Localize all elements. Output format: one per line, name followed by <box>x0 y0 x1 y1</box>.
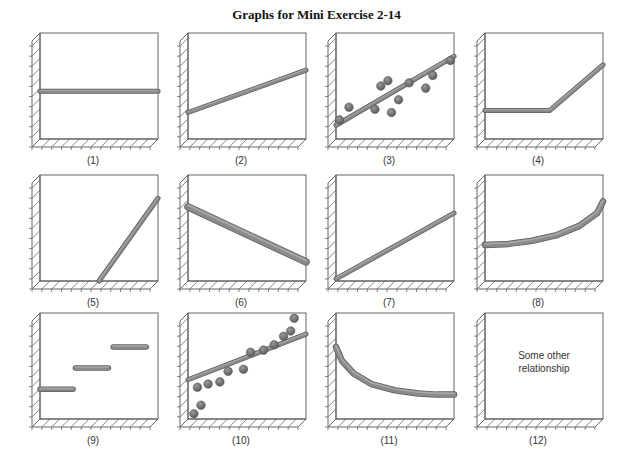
data-point <box>197 401 206 410</box>
x-tick <box>32 139 40 147</box>
x-tick <box>52 419 60 427</box>
x-tick <box>229 419 237 427</box>
x-tick <box>595 281 603 289</box>
panel-caption: (1) <box>87 155 99 166</box>
plot-wall <box>485 33 603 139</box>
y-tick <box>477 379 485 387</box>
y-tick <box>328 241 336 249</box>
y-tick <box>32 99 40 107</box>
x-tick <box>348 139 356 147</box>
graph-panel-1: (1) <box>29 33 158 166</box>
y-tick <box>32 369 40 377</box>
x-tick <box>52 281 60 289</box>
x-tick <box>239 139 247 147</box>
data-point <box>190 409 199 418</box>
graph-panel-9: (9) <box>29 313 158 446</box>
y-tick <box>477 399 485 407</box>
y-tick <box>328 220 336 228</box>
y-tick <box>477 409 485 417</box>
x-tick <box>526 419 534 427</box>
x-tick <box>387 281 395 289</box>
y-tick <box>180 399 188 407</box>
y-tick <box>328 78 336 86</box>
x-tick <box>42 139 50 147</box>
x-tick <box>507 281 515 289</box>
panel-note: relationship <box>518 363 570 374</box>
graph-panel-6: (6) <box>177 175 306 308</box>
y-tick <box>180 338 188 346</box>
x-tick <box>338 419 346 427</box>
y-tick <box>180 190 188 198</box>
x-tick <box>417 281 425 289</box>
x-tick <box>81 139 89 147</box>
x-tick <box>210 419 218 427</box>
y-tick <box>32 338 40 346</box>
y-tick <box>477 358 485 366</box>
x-tick <box>71 139 79 147</box>
x-tick <box>150 139 158 147</box>
panel-caption: (8) <box>532 297 544 308</box>
graph-panel-7: (7) <box>325 175 454 308</box>
x-tick <box>516 139 524 147</box>
x-tick <box>595 419 603 427</box>
x-tick <box>367 419 375 427</box>
x-tick <box>566 419 574 427</box>
x-tick <box>200 139 208 147</box>
x-tick <box>140 281 148 289</box>
x-tick <box>239 281 247 289</box>
x-tick <box>101 419 109 427</box>
x-tick <box>259 281 267 289</box>
x-tick <box>219 281 227 289</box>
data-point <box>270 341 279 350</box>
y-tick <box>180 99 188 107</box>
graph-panel-11: (11) <box>325 313 454 446</box>
x-tick <box>269 419 277 427</box>
panel-caption: (9) <box>87 435 99 446</box>
x-tick <box>62 139 70 147</box>
x-tick <box>546 419 554 427</box>
x-tick <box>249 139 257 147</box>
y-tick <box>477 119 485 127</box>
y-tick <box>180 271 188 279</box>
x-tick <box>585 281 593 289</box>
x-tick <box>190 419 198 427</box>
y-tick <box>180 58 188 66</box>
x-tick <box>180 281 188 289</box>
graphs-grid: (1)(2)(3)(4)(5)(6)(7)(8)(9)(10)(11)Some … <box>0 0 633 468</box>
x-tick <box>397 281 405 289</box>
x-tick <box>219 139 227 147</box>
panel-caption: (10) <box>232 435 250 446</box>
panel-caption: (3) <box>383 155 395 166</box>
x-tick <box>487 139 495 147</box>
y-tick <box>32 261 40 269</box>
y-tick <box>328 358 336 366</box>
graph-panel-2: (2) <box>177 33 306 166</box>
y-tick <box>32 129 40 137</box>
y-tick <box>477 251 485 259</box>
y-tick <box>328 58 336 66</box>
x-tick <box>91 139 99 147</box>
x-tick <box>32 281 40 289</box>
x-tick <box>358 419 366 427</box>
x-tick <box>387 139 395 147</box>
y-tick <box>32 379 40 387</box>
data-point <box>371 105 380 114</box>
x-tick <box>377 139 385 147</box>
y-tick <box>180 119 188 127</box>
y-tick <box>328 48 336 56</box>
y-tick <box>32 210 40 218</box>
x-tick <box>507 139 515 147</box>
data-point <box>216 378 225 387</box>
y-tick <box>477 129 485 137</box>
y-tick <box>328 200 336 208</box>
x-tick <box>42 281 50 289</box>
y-tick <box>477 68 485 76</box>
data-point <box>345 103 354 112</box>
x-tick <box>278 281 286 289</box>
x-tick <box>259 139 267 147</box>
x-tick <box>497 419 505 427</box>
plot-wall <box>336 33 454 139</box>
x-tick <box>397 419 405 427</box>
x-tick <box>229 139 237 147</box>
y-tick <box>328 89 336 97</box>
